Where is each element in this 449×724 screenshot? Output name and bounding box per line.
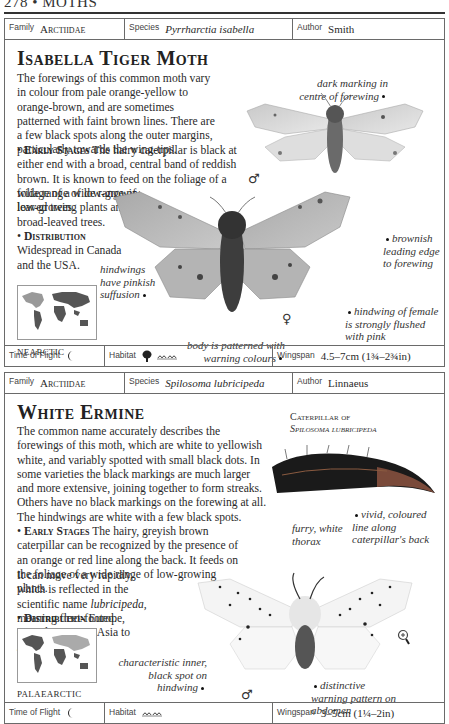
caterpillar-heading: Caterpillar of Spilosoma lubricipeda — [290, 411, 376, 435]
female-symbol: ♀ — [282, 311, 292, 326]
author-label: Author — [297, 376, 322, 386]
species-label: Species — [129, 22, 159, 32]
wingspan-cell: Wingspan 4.5–7cm (1¾–2¾in) — [273, 346, 444, 366]
family-cell: Family Arctiidae — [5, 373, 125, 393]
header-rule — [4, 12, 445, 14]
caption-inner-spot: characteristic inner, black spot on hind… — [117, 656, 207, 694]
species-entry-isabella: Family Arctiidae Species Pyrrharctia isa… — [4, 18, 445, 367]
author-value: Smith — [328, 23, 354, 35]
time-of-flight-label: Time of Flight — [9, 707, 60, 717]
range-map-nearctic — [17, 285, 97, 340]
page-header: 278 • MOTHS — [4, 0, 97, 11]
wingspan-label: Wingspan — [277, 350, 315, 360]
male-moth-illustration — [190, 569, 420, 679]
family-value: Arctiidae — [40, 23, 85, 35]
species-cell: Species Spilosoma lubricipeda — [125, 373, 293, 393]
author-value: Linnaeus — [328, 377, 368, 389]
species-entry-white-ermine: Family Arctiidae Species Spilosoma lubri… — [4, 372, 445, 724]
caption-furry-thorax: furry, white thorax — [292, 522, 352, 547]
wingspan-value: 3–5cm (1¼–2in) — [321, 707, 394, 719]
wingspan-label: Wingspan — [277, 707, 315, 717]
world-map-icon — [18, 629, 96, 682]
meta-row: Family Arctiidae Species Pyrrharctia isa… — [5, 19, 444, 40]
meta-row: Family Arctiidae Species Spilosoma lubri… — [5, 373, 444, 394]
male-symbol: ♂ — [248, 171, 260, 186]
description-block: The common name accurately describes the… — [17, 425, 269, 525]
species-title: White Ermine — [17, 401, 145, 424]
family-label: Family — [9, 22, 34, 32]
map-label: PALAEARCTIC — [17, 689, 81, 699]
author-cell: Author Smith — [293, 19, 444, 39]
footer-row: Time of Flight Habitat Wingspan 4.5–7cm … — [5, 345, 444, 366]
footer-row: Time of Flight Habitat Wingspan 3–5cm (1… — [5, 702, 444, 723]
wingspan-value: 4.5–7cm (1¾–2¾in) — [321, 350, 411, 362]
wingspan-cell: Wingspan 3–5cm (1¼–2in) — [273, 703, 444, 723]
distribution-heading: Distribution — [24, 230, 86, 243]
caption-hindwing-female: hindwing of female is strongly flushed w… — [345, 305, 440, 343]
species-value: Pyrrharctia isabella — [165, 23, 254, 35]
caption-brownish-edge: brownish leading edge to forewing — [383, 232, 445, 270]
species-value: Spilosoma lubricipeda — [165, 377, 264, 389]
description-text: The common name accurately describes the… — [17, 425, 269, 525]
habitat-label: Habitat — [109, 707, 136, 717]
magnifier-icon[interactable] — [397, 629, 411, 645]
world-map-icon — [18, 286, 96, 339]
family-label: Family — [9, 376, 34, 386]
habitat-label: Habitat — [109, 350, 136, 360]
distribution-heading: Distribution — [24, 612, 86, 625]
caption-hindwings-pinkish: hindwings have pinkish suffusion — [100, 263, 160, 301]
species-cell: Species Pyrrharctia isabella — [125, 19, 293, 39]
species-title: Isabella Tiger Moth — [17, 47, 208, 70]
early-stages-heading: Early Stages — [24, 525, 90, 538]
habitat-cell: Habitat — [105, 703, 273, 723]
grassland-icon — [157, 352, 177, 360]
habitat-cell: Habitat — [105, 346, 273, 366]
male-symbol: ♂ — [241, 687, 253, 702]
caption-vivid-line: vivid, coloured line along caterpillar's… — [352, 508, 444, 546]
moon-icon — [66, 350, 76, 362]
family-cell: Family Arctiidae — [5, 19, 125, 39]
author-label: Author — [297, 22, 322, 32]
grassland-icon — [142, 709, 162, 717]
family-value: Arctiidae — [40, 377, 85, 389]
caption-dark-marking: dark marking in centre of forewing — [288, 77, 388, 102]
time-of-flight-cell: Time of Flight — [5, 703, 105, 723]
time-of-flight-label: Time of Flight — [9, 350, 60, 360]
moon-icon — [66, 707, 76, 719]
species-label: Species — [129, 376, 159, 386]
author-cell: Author Linnaeus — [293, 373, 444, 393]
time-of-flight-cell: Time of Flight — [5, 346, 105, 366]
early-stages-heading: Early Stages — [24, 144, 90, 157]
range-map-palaearctic — [17, 628, 97, 683]
caterpillar-illustration — [267, 445, 437, 505]
tree-icon — [142, 350, 152, 362]
